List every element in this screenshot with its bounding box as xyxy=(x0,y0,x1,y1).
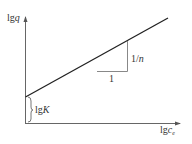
y-axis-label: lgq xyxy=(7,12,20,23)
isotherm-line xyxy=(26,18,169,97)
run-label: 1 xyxy=(109,73,114,84)
rise-label: 1/n xyxy=(131,53,144,64)
x-axis-label: lgce xyxy=(160,124,175,136)
freundlich-log-plot: lgq lgce lgK 1 1/n xyxy=(0,0,192,144)
intercept-brace xyxy=(28,97,33,122)
intercept-label: lgK xyxy=(35,104,51,115)
slope-triangle xyxy=(97,41,128,72)
